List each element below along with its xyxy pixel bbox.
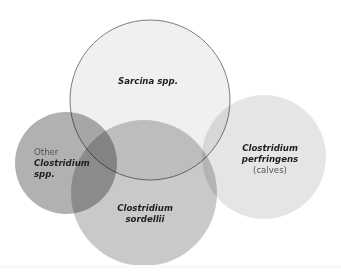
label-other-clostridium: Other Clostridium spp.: [34, 147, 90, 180]
venn-circles: [0, 0, 341, 276]
label-sordellii: Clostridium sordellii: [117, 203, 173, 225]
label-sarcina: Sarcina spp.: [118, 76, 178, 87]
venn-diagram: Sarcina spp. Other Clostridium spp. Clos…: [0, 0, 341, 276]
label-sordellii-line2: sordellii: [117, 214, 173, 225]
label-other-line1: Other: [34, 147, 90, 158]
label-sarcina-line1: Sarcina spp.: [118, 76, 178, 87]
label-other-line2: Clostridium: [34, 158, 90, 169]
label-other-line3: spp.: [34, 169, 90, 180]
label-sordellii-line1: Clostridium: [117, 203, 173, 214]
circle-sarcina: [70, 20, 230, 180]
label-perfringens: Clostridium perfringens (calves): [242, 143, 298, 176]
bottom-band: [0, 265, 341, 269]
label-perfringens-line1: Clostridium: [242, 143, 298, 154]
label-perfringens-line3: (calves): [242, 165, 298, 176]
label-perfringens-line2: perfringens: [242, 154, 298, 165]
